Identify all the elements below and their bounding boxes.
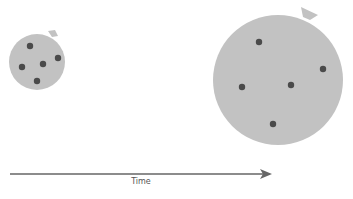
cell-dot [288,82,294,88]
cell-dot [239,84,245,90]
cell-tab-icon [301,7,318,20]
cell-dot [320,66,326,72]
cell-dot [34,78,40,84]
cell-dot [270,121,276,127]
large-cell [213,7,343,145]
time-axis-label: Time [110,177,172,186]
cells-layer [9,7,343,145]
cell-tab-icon [48,30,58,37]
cell-dot [256,39,262,45]
cell-dot [19,64,25,70]
diagram-canvas [0,0,353,199]
cell-dot [55,55,61,61]
small-cell [9,30,65,90]
cell-dot [27,43,33,49]
cell-dot [40,61,46,67]
cell-body [213,15,343,145]
